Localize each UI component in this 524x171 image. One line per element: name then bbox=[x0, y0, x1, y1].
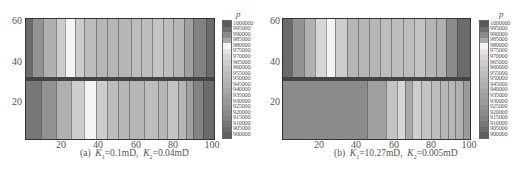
pressure-band bbox=[84, 81, 95, 139]
band-boundary bbox=[457, 19, 458, 77]
y-tick: 20 bbox=[4, 96, 22, 107]
pressure-band bbox=[129, 81, 144, 139]
pressure-band bbox=[75, 19, 84, 77]
pressure-band bbox=[118, 81, 129, 139]
band-boundary bbox=[186, 81, 187, 139]
pressure-band bbox=[358, 19, 369, 77]
band-boundary bbox=[347, 19, 348, 77]
pressure-band bbox=[455, 81, 462, 139]
band-boundary bbox=[178, 81, 179, 139]
band-boundary bbox=[158, 81, 159, 139]
pressure-band bbox=[158, 81, 167, 139]
layer-separator bbox=[26, 77, 214, 81]
k1-value: =10.27mD, bbox=[359, 148, 402, 158]
pressure-band bbox=[118, 19, 131, 77]
pressure-band bbox=[186, 81, 194, 139]
pressure-band bbox=[391, 19, 402, 77]
band-boundary bbox=[43, 19, 44, 77]
colorbar-label: 900000 bbox=[490, 131, 507, 137]
pressure-band bbox=[463, 81, 470, 139]
pressure-band bbox=[71, 81, 84, 139]
band-boundary bbox=[152, 19, 153, 77]
pressure-band bbox=[326, 19, 335, 77]
pressure-band bbox=[347, 19, 358, 77]
band-boundary bbox=[304, 19, 305, 77]
band-boundary bbox=[380, 19, 381, 77]
pressure-band bbox=[421, 81, 430, 139]
pressure-band bbox=[107, 19, 118, 77]
pressure-band bbox=[380, 19, 391, 77]
pressure-band bbox=[283, 81, 367, 139]
pressure-band bbox=[448, 81, 455, 139]
band-boundary bbox=[436, 19, 437, 77]
colorbar-segment bbox=[223, 132, 231, 138]
band-boundary bbox=[463, 81, 464, 139]
pressure-band bbox=[431, 81, 440, 139]
caption-b: (b) K1=10.27mD, K2=0.005mD bbox=[334, 148, 458, 160]
pressure-band bbox=[56, 81, 71, 139]
band-boundary bbox=[193, 81, 194, 139]
pressure-band bbox=[425, 19, 436, 77]
band-boundary bbox=[118, 19, 119, 77]
band-boundary bbox=[129, 81, 130, 139]
layer-bottom bbox=[26, 81, 214, 139]
pressure-band bbox=[315, 19, 326, 77]
y-tick: 60 bbox=[4, 15, 22, 26]
pressure-band bbox=[457, 19, 470, 77]
pressure-band bbox=[173, 19, 184, 77]
caption-label: (a) bbox=[80, 148, 91, 158]
band-boundary bbox=[84, 81, 85, 139]
band-boundary bbox=[412, 81, 413, 139]
band-boundary bbox=[84, 19, 85, 77]
pressure-band bbox=[178, 81, 186, 139]
x-tick: 20 bbox=[307, 139, 331, 150]
pressure-band bbox=[335, 19, 346, 77]
band-boundary bbox=[167, 81, 168, 139]
panel-b: 60 40 20 20 40 60 80 100 p 1000000995000… bbox=[262, 0, 524, 171]
pressure-band bbox=[304, 19, 315, 77]
pressure-band bbox=[163, 19, 172, 77]
x-tick: 20 bbox=[49, 139, 73, 150]
caption-label: (b) bbox=[334, 148, 345, 158]
band-boundary bbox=[107, 81, 108, 139]
band-boundary bbox=[414, 19, 415, 77]
y-tick: 40 bbox=[262, 56, 280, 67]
band-boundary bbox=[425, 19, 426, 77]
pressure-band bbox=[436, 19, 445, 77]
k2-value: =0.04mD bbox=[153, 148, 189, 158]
pressure-band bbox=[203, 81, 214, 139]
band-boundary bbox=[144, 81, 145, 139]
band-boundary bbox=[96, 81, 97, 139]
pressure-band bbox=[131, 19, 140, 77]
band-boundary bbox=[184, 19, 185, 77]
band-boundary bbox=[403, 19, 404, 77]
layer-separator bbox=[283, 77, 470, 81]
band-boundary bbox=[41, 81, 42, 139]
pressure-field-plot-b bbox=[282, 18, 471, 140]
band-boundary bbox=[391, 19, 392, 77]
band-boundary bbox=[141, 19, 142, 77]
pressure-band bbox=[43, 19, 56, 77]
band-boundary bbox=[56, 19, 57, 77]
pressure-band bbox=[41, 81, 56, 139]
x-tick: 100 bbox=[200, 139, 224, 150]
band-boundary bbox=[206, 19, 207, 77]
pressure-band bbox=[167, 81, 178, 139]
colorbar-segment bbox=[480, 132, 488, 138]
k2-value: =0.005mD bbox=[417, 148, 458, 158]
colorbar-label: 900000 bbox=[233, 131, 250, 137]
pressure-band bbox=[56, 19, 65, 77]
band-boundary bbox=[448, 81, 449, 139]
band-boundary bbox=[455, 81, 456, 139]
pressure-band bbox=[193, 81, 202, 139]
pressure-band bbox=[141, 19, 152, 77]
pressure-band bbox=[32, 19, 43, 77]
colorbar-title: p bbox=[236, 9, 241, 19]
band-boundary bbox=[315, 19, 316, 77]
pressure-band bbox=[397, 81, 404, 139]
band-boundary bbox=[107, 19, 108, 77]
pressure-band bbox=[26, 81, 41, 139]
pressure-band bbox=[184, 19, 193, 77]
y-tick: 60 bbox=[262, 15, 280, 26]
pressure-band bbox=[440, 81, 447, 139]
